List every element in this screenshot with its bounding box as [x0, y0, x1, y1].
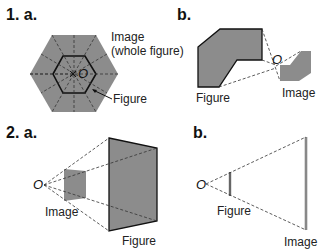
caption-1a-image-sub: (whole figure) — [111, 44, 184, 58]
image-quad — [64, 169, 86, 201]
caption-1b-figure: Figure — [196, 91, 230, 105]
caption-2a-image: Image — [45, 205, 78, 219]
panel-label-1a: 1. a. — [6, 6, 37, 24]
origin-1b: O — [272, 52, 282, 67]
caption-1b-image: Image — [282, 86, 315, 100]
panel-1a-drawing — [30, 35, 118, 112]
panel-1b-drawing — [198, 29, 311, 87]
caption-2b-image: Image — [284, 235, 317, 249]
panel-label-2b: b. — [193, 124, 207, 142]
origin-1a: O — [78, 66, 88, 81]
image-shape — [280, 51, 311, 81]
caption-2b-figure: Figure — [217, 204, 251, 218]
caption-1a-figure: Figure — [113, 92, 147, 106]
panel-label-2a: 2. a. — [6, 124, 37, 142]
origin-2a: O — [33, 177, 43, 192]
origin-2b: O — [196, 177, 206, 192]
figure-shape — [198, 29, 262, 87]
figure-quad — [109, 138, 157, 231]
caption-2a-figure: Figure — [122, 234, 156, 248]
caption-1a-image: Image — [111, 30, 144, 44]
panel-label-1b: b. — [177, 6, 191, 24]
